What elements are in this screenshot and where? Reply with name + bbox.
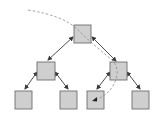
edge-mid-right-leaf-rr	[127, 72, 140, 89]
node-mid-right	[110, 62, 127, 80]
edge-mid-left-leaf-lr	[55, 72, 68, 89]
dashed-traversal-path	[28, 10, 117, 100]
tree-diagram	[0, 0, 160, 116]
edge-root-mid-right	[92, 37, 116, 61]
node-mid-left	[37, 62, 55, 80]
node-leaf-ll	[15, 91, 32, 109]
edge-mid-left-leaf-ll	[25, 72, 37, 89]
node-leaf-lr	[60, 91, 77, 109]
edge-root-mid-left	[48, 37, 73, 60]
nodes	[15, 25, 149, 109]
edge-mid-right-leaf-rl	[97, 72, 110, 89]
node-leaf-rr	[132, 91, 149, 109]
